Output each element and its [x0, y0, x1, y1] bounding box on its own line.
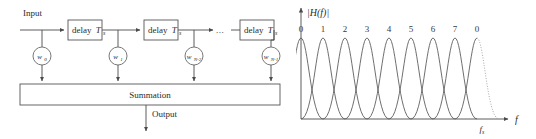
weight-n-1-subscript: N-1: [270, 57, 279, 62]
weight-tap-n-2[interactable]: w N-2: [185, 47, 203, 65]
weight-tap-1[interactable]: w 1: [109, 47, 127, 65]
delay-last-symbol: T: [268, 25, 274, 35]
lobe-label-2: 2: [343, 24, 348, 34]
delay-last-subscript: s: [275, 30, 278, 36]
weight-output-lines: [42, 65, 271, 81]
lobe-label-7: 7: [453, 24, 458, 34]
x-axis-label: f: [515, 114, 519, 125]
transversal-filter-diagram-panel: Input delay T s dela: [0, 0, 300, 139]
delay-1-symbol: T: [96, 25, 102, 35]
delay-2-symbol: T: [172, 25, 178, 35]
weight-n-2-symbol: w: [187, 53, 192, 61]
weight-1-symbol: w: [113, 53, 118, 61]
lobe-curve-8-solid: [455, 38, 477, 119]
frequency-response-chart-panel: |H(f)| f fs: [296, 0, 536, 139]
weight-0-symbol: w: [37, 53, 42, 61]
input-label: Input: [23, 8, 42, 18]
x-axis-fs-label: fs: [480, 124, 486, 135]
ellipsis-label: ...: [216, 25, 224, 35]
summation-block[interactable]: Summation: [20, 84, 280, 105]
lobe-label-8: 0: [475, 24, 480, 34]
lobe-curve-7: [433, 38, 477, 119]
y-axis-label: |H(f)|: [307, 7, 329, 19]
delay-block-2[interactable]: delay T s: [144, 20, 182, 40]
lobe-label-6: 6: [431, 24, 436, 34]
delay-block-1[interactable]: delay T s: [68, 20, 106, 40]
delay-block-last[interactable]: delay T s: [240, 20, 278, 40]
lobe-curve-2: [323, 38, 367, 119]
delay-1-subscript: s: [103, 30, 106, 36]
fs-subscript: s: [482, 129, 485, 135]
output-label: Output: [152, 109, 178, 119]
weight-n-1-symbol: w: [264, 53, 269, 61]
lobe-labels: 0 1 2 3 4 5 6 7 0: [299, 24, 480, 34]
lobe-label-4: 4: [387, 24, 392, 34]
delay-last-text: delay: [244, 25, 264, 35]
weight-tap-n-1[interactable]: w N-1: [262, 47, 280, 65]
delay-1-text: delay: [72, 25, 92, 35]
svg-text:delay T s: delay T s: [148, 25, 182, 36]
lobe-curve-3: [345, 38, 389, 119]
lobe-label-0: 0: [299, 24, 304, 34]
lobe-curve-1: [301, 38, 345, 119]
summation-label: Summation: [129, 90, 171, 100]
svg-text:delay T s: delay T s: [244, 25, 278, 36]
y-axis-label-suffix: )|: [322, 7, 329, 19]
weight-1-subscript: 1: [120, 57, 123, 62]
lobe-curve-8-dotted: [477, 38, 499, 119]
svg-text:delay T s: delay T s: [72, 25, 106, 36]
lobe-label-1: 1: [321, 24, 326, 34]
y-axis-label-prefix: |H(: [307, 7, 321, 19]
lobe-curve-4: [367, 38, 411, 119]
weight-tap-0[interactable]: w 0: [33, 47, 51, 65]
weight-n-2-subscript: N-2: [193, 57, 202, 62]
lobe-label-3: 3: [365, 24, 370, 34]
response-lobes: [296, 38, 499, 119]
figure-root: Input delay T s dela: [0, 0, 536, 139]
delay-2-text: delay: [148, 25, 168, 35]
lobe-label-5: 5: [409, 24, 414, 34]
lobe-curve-6: [411, 38, 455, 119]
lobe-curve-5: [389, 38, 433, 119]
delay-2-subscript: s: [179, 30, 182, 36]
